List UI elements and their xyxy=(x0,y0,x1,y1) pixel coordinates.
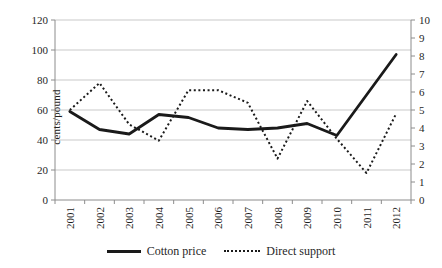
x-axis-year-label: 2005 xyxy=(183,207,195,230)
x-axis-year-label: 2012 xyxy=(390,207,402,229)
right-axis-tick-label: 0 xyxy=(419,194,425,206)
cotton-price-line xyxy=(70,55,396,136)
x-axis-year-label: 2007 xyxy=(242,207,254,230)
x-axis-year-label: 2008 xyxy=(272,207,284,230)
legend-item-cotton-price: Cotton price xyxy=(107,244,207,259)
legend-item-direct-support: Direct support xyxy=(224,244,335,259)
right-axis-tick-label: 5 xyxy=(419,104,425,116)
left-axis-title: cents/pound xyxy=(50,62,64,172)
left-axis-tick-label: 80 xyxy=(37,74,49,86)
left-axis-tick-label: 100 xyxy=(32,44,49,56)
x-axis-year-label: 2006 xyxy=(212,207,224,230)
x-axis-year-label: 2003 xyxy=(123,207,135,230)
dual-axis-line-chart: 0204060801001200123456789102001200220032… xyxy=(0,0,442,268)
legend-label-direct-support: Direct support xyxy=(266,244,335,259)
right-axis-tick-label: 4 xyxy=(419,122,425,134)
chart-legend: Cotton price Direct support xyxy=(0,241,442,261)
right-axis-tick-label: 2 xyxy=(419,158,425,170)
x-axis-year-label: 2011 xyxy=(361,207,373,229)
x-axis-year-label: 2001 xyxy=(64,207,76,229)
left-axis-tick-label: 20 xyxy=(37,164,49,176)
left-axis-tick-label: 60 xyxy=(37,104,49,116)
x-axis-year-label: 2010 xyxy=(331,207,343,230)
right-axis-tick-label: 6 xyxy=(419,86,425,98)
left-axis-tick-label: 120 xyxy=(32,14,49,26)
solid-line-swatch xyxy=(107,250,141,253)
legend-label-cotton-price: Cotton price xyxy=(147,244,207,259)
x-axis-year-label: 2009 xyxy=(301,207,313,230)
right-axis-tick-label: 9 xyxy=(419,32,425,44)
right-axis-tick-label: 3 xyxy=(419,140,425,152)
right-axis-tick-label: 10 xyxy=(419,14,431,26)
x-axis-year-label: 2004 xyxy=(153,207,165,230)
chart-plot-area: 0204060801001200123456789102001200220032… xyxy=(0,0,442,268)
right-axis-tick-label: 1 xyxy=(419,176,425,188)
right-axis-tick-label: 7 xyxy=(419,68,425,80)
left-axis-tick-label: 40 xyxy=(37,134,49,146)
right-axis-tick-label: 8 xyxy=(419,50,425,62)
x-axis-year-label: 2002 xyxy=(94,207,106,229)
left-axis-tick-label: 0 xyxy=(43,194,49,206)
dotted-line-swatch xyxy=(224,250,260,252)
